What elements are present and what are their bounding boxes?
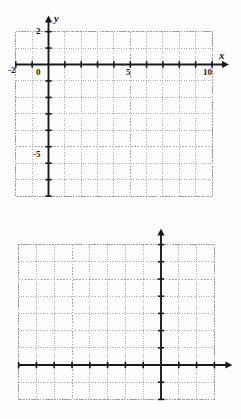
- top-axis-label-y: y: [54, 13, 59, 24]
- top-axis-label-x: x: [219, 50, 225, 61]
- bottom-grid-svg: [0, 212, 241, 419]
- top-gridlines: [16, 32, 212, 197]
- top-ylabel-neg5: -5: [33, 150, 41, 159]
- bottom-axis-ticks: [19, 245, 215, 400]
- top-coordinate-grid: 2 -2 0 5 10 -5 y x: [0, 0, 241, 212]
- bottom-coordinate-grid: 5 -5 0 3 -2 y x: [0, 212, 241, 419]
- top-xlabel-neg2: -2: [8, 66, 16, 75]
- top-xlabel-10: 10: [203, 68, 212, 77]
- top-axes: [16, 16, 229, 197]
- top-ylabel-2: 2: [36, 27, 41, 36]
- bottom-gridlines: [19, 245, 215, 400]
- top-xlabel-5: 5: [126, 68, 131, 77]
- top-origin-label: 0: [36, 68, 41, 77]
